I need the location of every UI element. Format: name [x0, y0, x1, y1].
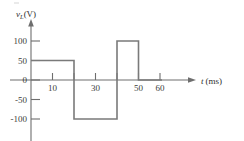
y-tick-label-100: 100	[14, 36, 28, 46]
y-tick-label-0: 0	[23, 75, 28, 85]
y-tick-label-50: 50	[18, 56, 28, 66]
x-tick-label-50: 50	[134, 83, 144, 93]
x-axis-label-unit: (ms)	[206, 76, 223, 86]
y-axis-label: vL(V)	[16, 9, 36, 20]
y-axis-arrowhead	[28, 19, 34, 27]
x-tick-label-30: 30	[91, 83, 101, 93]
x-axis-label: t(ms)	[201, 76, 222, 86]
voltage-waveform-figure: 100 50 0 -50 -100 10 30 50 60 vL(V) t(ms…	[0, 0, 244, 141]
y-axis-label-unit: (V)	[24, 9, 37, 19]
y-tick-label-neg100: -100	[11, 114, 28, 124]
x-tick-label-10: 10	[48, 83, 58, 93]
x-axis-arrowhead	[188, 77, 196, 83]
x-axis-label-symbol: t	[201, 76, 204, 86]
x-tick-label-60: 60	[156, 83, 166, 93]
y-tick-label-neg50: -50	[15, 95, 27, 105]
